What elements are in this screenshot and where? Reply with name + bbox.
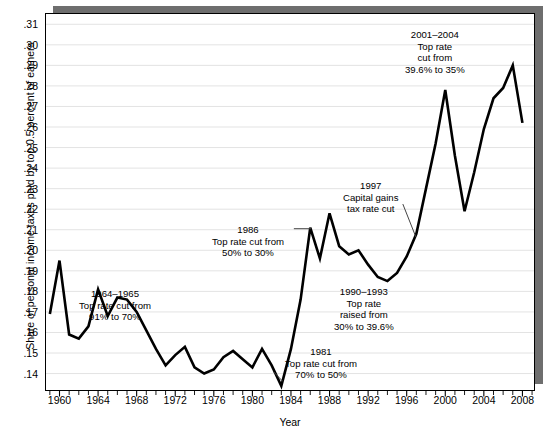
annotation-line: raised from [334,309,394,321]
x-tick-label: 2008 [511,394,534,406]
annotation-line: 50% to 30% [212,247,284,259]
y-tick-label: .27 [8,100,38,112]
data-series-group [50,65,523,386]
y-tick-label: .14 [8,368,38,380]
annotation-line: Top rate cut from [79,300,151,312]
annotation-line: cut from [405,52,465,64]
annotation-line: tax rate cut [343,203,398,215]
chart-annotation: 2001–2004Top ratecut from39.6% to 35% [405,29,465,75]
y-tick-label: .30 [8,39,38,51]
annotation-line: Capital gains [343,192,398,204]
x-tick-label: 1980 [241,394,264,406]
annotation-line: 70% to 50% [285,369,357,381]
x-tick-label: 2004 [472,394,495,406]
annotation-line: 39.6% to 35% [405,64,465,76]
x-axis-label: Year [45,416,535,428]
annotation-line: 1997 [343,180,398,192]
chart-figure: Share of personal income taxes paid by t… [0,0,548,437]
y-tick-label: .29 [8,59,38,71]
chart-annotation: 1964–1965Top rate cut from91% to 70% [79,288,151,323]
annotation-line: 30% to 39.6% [334,321,394,333]
y-tick-label: .21 [8,224,38,236]
chart-annotation: 1986Top rate cut from50% to 30% [212,224,284,259]
y-tick-label: .15 [8,347,38,359]
x-tick-label: 1988 [318,394,341,406]
annotation-line: Top rate [334,298,394,310]
annotation-line: 1964–1965 [79,288,151,300]
annotation-line: Top rate [405,41,465,53]
annotation-line: 1986 [212,224,284,236]
y-tick-label: .31 [8,18,38,30]
chart-annotation: 1997Capital gainstax rate cut [343,180,398,215]
x-tick-label: 2000 [434,394,457,406]
y-tick-label: .23 [8,183,38,195]
y-tick-label: .25 [8,142,38,154]
x-tick-label: 1992 [356,394,379,406]
y-tick-label: .17 [8,306,38,318]
y-tick-label: .16 [8,326,38,338]
x-tick-label: 1960 [48,394,71,406]
y-tick-label: .28 [8,80,38,92]
x-tick-label: 1968 [125,394,148,406]
annotation-line: 2001–2004 [405,29,465,41]
annotation-line: 91% to 70% [79,311,151,323]
chart-annotation: 1990–1993Top rateraised from30% to 39.6% [334,286,394,332]
y-tick-label: .24 [8,162,38,174]
annotation-line: Top rate cut from [212,236,284,248]
y-tick-label: .19 [8,265,38,277]
y-tick-label: .18 [8,285,38,297]
y-tick-label: .26 [8,121,38,133]
x-tick-label: 1984 [279,394,302,406]
annotation-line: Top rate cut from [285,358,357,370]
x-tick-label: 1996 [395,394,418,406]
annotation-line: 1990–1993 [334,286,394,298]
x-tick-label: 1976 [202,394,225,406]
annotation-line: 1981 [285,346,357,358]
x-tick-label: 1964 [86,394,109,406]
x-tick-label: 1972 [164,394,187,406]
y-tick-label: .22 [8,203,38,215]
chart-annotation: 1981Top rate cut from70% to 50% [285,346,357,381]
y-tick-label: .20 [8,244,38,256]
